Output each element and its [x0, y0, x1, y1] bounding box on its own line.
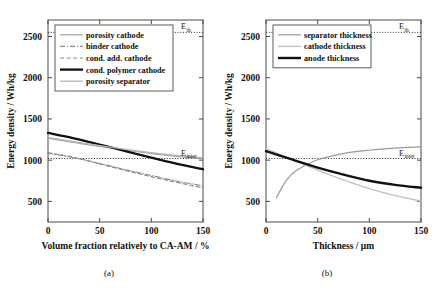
- y-tick-label: 1500: [241, 114, 260, 124]
- annotation-symbol: E: [399, 149, 404, 158]
- annotation-inter: Einter: [181, 149, 197, 160]
- annotation-subscript: inter: [405, 153, 415, 159]
- annotation-symbol: E: [399, 22, 404, 31]
- x-axis-title: Volume fraction relatively to CA-AM / %: [42, 241, 210, 251]
- panel-a-plot: 0501001505001000150020002500Volume fract…: [0, 0, 218, 299]
- x-tick-label: 50: [313, 226, 323, 236]
- y-tick-label: 500: [28, 197, 43, 207]
- x-tick-label: 100: [362, 226, 377, 236]
- x-tick-label: 150: [414, 226, 429, 236]
- legend-label: cond. polymer cathode: [86, 66, 166, 75]
- legend-label: porosity separator: [86, 77, 151, 86]
- y-tick-label: 2000: [23, 73, 42, 83]
- annotation-th: Eth: [399, 22, 409, 33]
- panel-b: 0501001505001000150020002500Thickness / …: [218, 0, 436, 299]
- annotation-symbol: E: [181, 149, 186, 158]
- curve-porosity-separator: [48, 137, 203, 157]
- curve-cond-polymer-cathode: [48, 133, 203, 169]
- y-tick-label: 500: [246, 197, 261, 207]
- panel-a: 0501001505001000150020002500Volume fract…: [0, 0, 218, 299]
- y-tick-label: 1000: [241, 156, 260, 166]
- y-tick-label: 1500: [23, 114, 42, 124]
- curve-anode-thickness: [266, 151, 421, 188]
- y-tick-label: 2000: [241, 73, 260, 83]
- x-tick-label: 50: [95, 226, 105, 236]
- annotation-th: Eth: [181, 22, 191, 33]
- y-tick-label: 2500: [241, 32, 260, 42]
- annotation-subscript: inter: [187, 153, 197, 159]
- legend-label: binder cathode: [86, 42, 139, 51]
- x-tick-label: 150: [196, 226, 211, 236]
- annotation-symbol: E: [181, 22, 186, 31]
- figure-container: 0501001505001000150020002500Volume fract…: [0, 0, 436, 299]
- x-tick-label: 0: [46, 226, 51, 236]
- curve-binder-cathode: [48, 153, 203, 186]
- panel-b-plot: 0501001505001000150020002500Thickness / …: [218, 0, 436, 299]
- annotation-subscript: th: [405, 27, 410, 33]
- y-tick-label: 1000: [23, 156, 42, 166]
- legend-label: cond. add. cathode: [86, 54, 152, 63]
- annotation-subscript: th: [187, 27, 192, 33]
- legend-label: porosity cathode: [86, 31, 144, 40]
- annotation-inter: Einter: [399, 149, 415, 160]
- curve-cond-add-cathode: [48, 153, 203, 188]
- legend-label: separator thickness: [304, 31, 372, 40]
- panel-a-caption: (a): [0, 268, 218, 278]
- y-axis-title: Energy density / Wh/kg: [224, 73, 234, 169]
- y-axis-title: Energy density / Wh/kg: [6, 73, 16, 169]
- legend-label: anode thickness: [304, 54, 359, 63]
- legend-label: cathode thickness: [304, 42, 366, 51]
- x-axis-title: Thickness / μm: [313, 241, 374, 251]
- x-tick-label: 0: [264, 226, 269, 236]
- y-tick-label: 2500: [23, 32, 42, 42]
- panel-b-caption: (b): [218, 268, 436, 278]
- x-tick-label: 100: [144, 226, 159, 236]
